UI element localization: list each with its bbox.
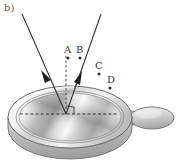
point-label-A: A	[64, 45, 71, 55]
physics-ray-diagram-figure: b)	[0, 0, 177, 161]
pan-handle-grip-highlight	[135, 110, 161, 119]
point-label-D: D	[107, 75, 115, 85]
point-dot-B	[79, 57, 82, 60]
point-dot-A	[67, 57, 70, 60]
reflected-ray-arrowhead	[74, 71, 82, 85]
frying-pan-group	[8, 86, 174, 159]
pan-surface-sheen	[19, 93, 121, 141]
point-dot-C	[98, 73, 101, 76]
diagram-canvas	[0, 0, 177, 161]
point-dot-D	[109, 87, 112, 90]
point-label-C: C	[95, 61, 103, 71]
point-label-B: B	[76, 45, 83, 55]
